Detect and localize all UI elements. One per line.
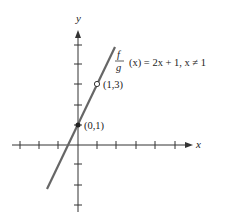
function-annotation: f g (x) = 2x + 1, x ≠ 1 — [115, 49, 206, 73]
point-label-0-1: (0,1) — [84, 120, 105, 132]
x-axis-arrow-icon — [185, 142, 193, 148]
point-0-1-filled — [76, 123, 81, 128]
function-line — [47, 47, 115, 189]
function-graph: x y (0,1) (1,3) f g (x) = 2x + 1, x ≠ 1 — [0, 0, 225, 223]
fraction-numerator: f — [117, 49, 122, 60]
x-axis: x — [12, 138, 201, 150]
y-axis: y — [74, 12, 82, 212]
fraction-denominator: g — [116, 62, 121, 73]
point-label-1-3: (1,3) — [103, 79, 124, 91]
point-1-3-open — [94, 81, 99, 86]
function-expression: (x) = 2x + 1, x ≠ 1 — [129, 57, 206, 69]
y-axis-label: y — [75, 12, 81, 24]
x-axis-label: x — [195, 138, 201, 150]
y-axis-arrow-icon — [75, 30, 81, 38]
